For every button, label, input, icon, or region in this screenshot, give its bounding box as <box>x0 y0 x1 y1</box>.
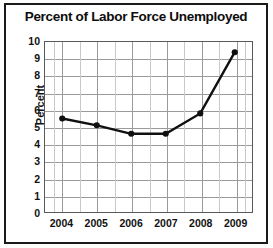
y-axis-tick-label: 6 <box>6 104 40 116</box>
y-axis-tick-label: 3 <box>6 155 40 167</box>
y-axis-tick-label: 2 <box>6 173 40 185</box>
y-axis-tick-label: 9 <box>6 52 40 64</box>
y-axis-tick-label: 8 <box>6 69 40 81</box>
series-line <box>62 52 234 134</box>
chart-figure: Percent of Labor Force Unemployed Percen… <box>0 0 273 248</box>
data-point <box>197 110 203 116</box>
plot-area <box>44 41 253 213</box>
data-point <box>232 49 238 55</box>
y-axis-tick-label: 4 <box>6 138 40 150</box>
y-axis-tick-label: 7 <box>6 87 40 99</box>
data-point <box>163 131 169 137</box>
y-axis-tick-label: 1 <box>6 190 40 202</box>
y-axis-tick-label: 10 <box>6 35 40 47</box>
y-axis-tick-label: 5 <box>6 121 40 133</box>
data-point <box>94 122 100 128</box>
chart-title: Percent of Labor Force Unemployed <box>8 9 264 24</box>
data-series <box>45 42 252 212</box>
data-point <box>59 115 65 121</box>
y-axis-tick-label: 0 <box>6 207 40 219</box>
data-point <box>128 131 134 137</box>
x-axis-tick-label: 2009 <box>216 217 256 229</box>
